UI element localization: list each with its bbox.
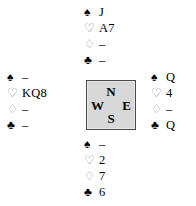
hand-east-hearts: ♡ 4	[151, 85, 175, 101]
hand-east-diamonds: ♢ –	[151, 101, 175, 117]
club-icon: ♣	[7, 117, 20, 133]
club-icon: ♣	[84, 184, 97, 200]
hand-east-clubs: ♣ Q	[151, 117, 175, 133]
hand-south-hearts: ♡ 2	[84, 152, 105, 168]
hand-east: ♠ Q ♡ 4 ♢ – ♣ Q	[151, 69, 175, 133]
hand-north-clubs-cards: –	[97, 52, 105, 68]
hand-south-spades: ♠ –	[84, 136, 105, 152]
hand-north-spades-cards: J	[97, 4, 104, 20]
heart-icon: ♡	[84, 152, 97, 168]
spade-icon: ♠	[84, 136, 97, 152]
diamond-icon: ♢	[7, 101, 20, 117]
hand-north-spades: ♠ J	[84, 4, 115, 20]
hand-east-hearts-cards: 4	[164, 85, 172, 101]
hand-west-clubs: ♣ –	[7, 117, 47, 133]
hand-north-diamonds-cards: –	[97, 36, 105, 52]
heart-icon: ♡	[84, 20, 97, 36]
hand-south-clubs-cards: 6	[97, 184, 105, 200]
spade-icon: ♠	[7, 69, 20, 85]
heart-icon: ♡	[7, 85, 20, 101]
hand-north: ♠ J ♡ A7 ♢ – ♣ –	[84, 4, 115, 68]
hand-north-hearts-cards: A7	[97, 20, 115, 36]
hand-west-hearts: ♡ KQ8	[7, 85, 47, 101]
hand-south-spades-cards: –	[97, 136, 105, 152]
hand-west-diamonds: ♢ –	[7, 101, 47, 117]
hand-east-spades-cards: Q	[164, 69, 175, 85]
compass-box: N W E S	[86, 80, 136, 130]
hand-west-spades: ♠ –	[7, 69, 47, 85]
hand-west-clubs-cards: –	[20, 117, 28, 133]
hand-east-spades: ♠ Q	[151, 69, 175, 85]
hand-west-spades-cards: –	[20, 69, 28, 85]
hand-south-hearts-cards: 2	[97, 152, 105, 168]
diamond-icon: ♢	[84, 36, 97, 52]
hand-west-hearts-cards: KQ8	[20, 85, 47, 101]
hand-north-clubs: ♣ –	[84, 52, 115, 68]
diamond-icon: ♢	[151, 101, 164, 117]
hand-south-clubs: ♣ 6	[84, 184, 105, 200]
hand-west-diamonds-cards: –	[20, 101, 28, 117]
hand-north-diamonds: ♢ –	[84, 36, 115, 52]
spade-icon: ♠	[151, 69, 164, 85]
spade-icon: ♠	[84, 4, 97, 20]
hand-west: ♠ – ♡ KQ8 ♢ – ♣ –	[7, 69, 47, 133]
club-icon: ♣	[84, 52, 97, 68]
hand-north-hearts: ♡ A7	[84, 20, 115, 36]
hand-east-clubs-cards: Q	[164, 117, 175, 133]
heart-icon: ♡	[151, 85, 164, 101]
diamond-icon: ♢	[84, 168, 97, 184]
hand-south-diamonds: ♢ 7	[84, 168, 105, 184]
hand-south: ♠ – ♡ 2 ♢ 7 ♣ 6	[84, 136, 105, 200]
hand-south-diamonds-cards: 7	[97, 168, 105, 184]
compass-label-south: S	[87, 112, 135, 125]
hand-east-diamonds-cards: –	[164, 101, 172, 117]
club-icon: ♣	[151, 117, 164, 133]
